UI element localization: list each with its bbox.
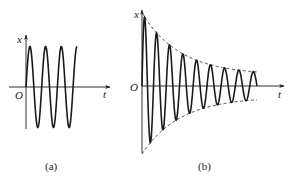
panel-b-x-label: x: [133, 8, 139, 20]
panel-a-t-label: t: [103, 88, 107, 100]
figure-canvas: x t O (a) x t O (b): [0, 0, 293, 178]
panel-b-t-label: t: [278, 88, 282, 100]
panel-b-lower-envelope: [142, 100, 257, 154]
panel-a-x-label: x: [16, 33, 22, 45]
panel-a-caption: (a): [45, 160, 58, 173]
panel-a-origin-label: O: [15, 89, 23, 101]
panel-b: x t O (b): [130, 8, 284, 173]
panel-a: x t O (a): [9, 33, 110, 173]
panel-b-origin-label: O: [130, 81, 138, 93]
panel-b-caption: (b): [198, 160, 211, 173]
